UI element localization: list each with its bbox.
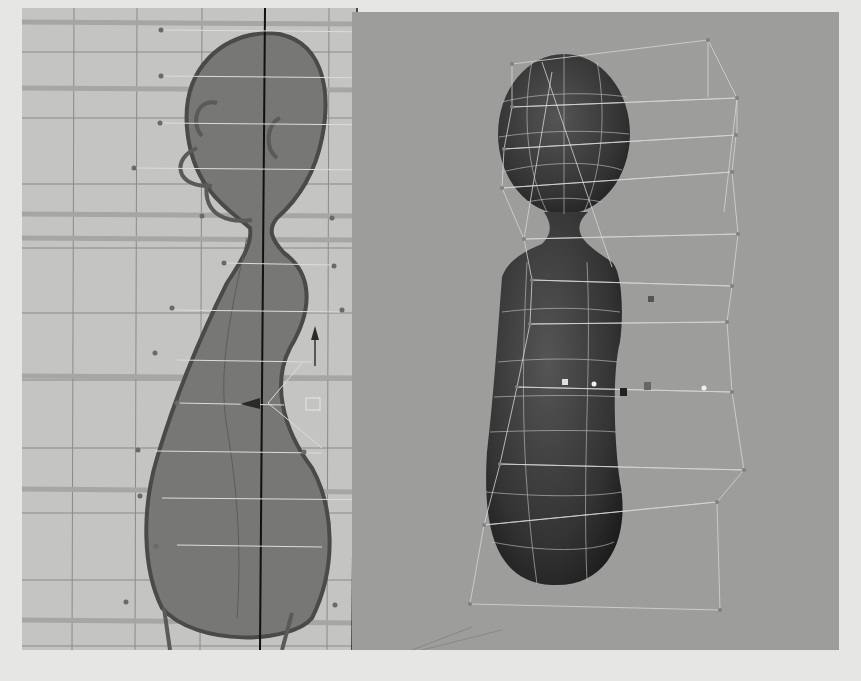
perspective-view-canvas[interactable] [352,12,839,650]
mesh-body [486,212,623,585]
side-view-canvas[interactable] [22,8,358,650]
perspective-viewport[interactable] [352,12,839,650]
side-viewport[interactable] [22,8,358,650]
pivot-icon [620,388,627,396]
